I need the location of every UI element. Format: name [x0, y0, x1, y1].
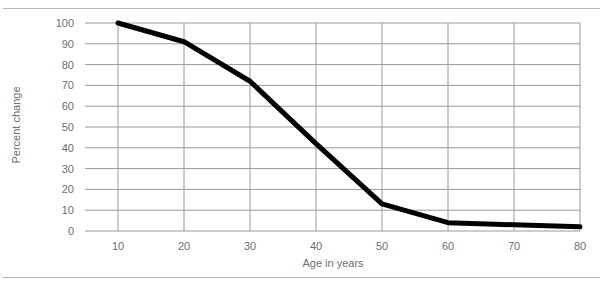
x-tick-label: 40	[310, 241, 322, 252]
y-tick-label: 70	[42, 80, 74, 91]
chart-figure: 0102030405060708090100 1020304050607080 …	[0, 0, 603, 289]
x-tick-label: 60	[442, 241, 454, 252]
y-tick-label: 20	[42, 184, 74, 195]
data-series-line	[118, 23, 580, 227]
y-tick-label: 80	[42, 59, 74, 70]
y-tick-label: 0	[42, 226, 74, 237]
y-tick-label: 50	[42, 122, 74, 133]
x-tick-label: 10	[112, 241, 124, 252]
y-tick-label: 10	[42, 205, 74, 216]
x-tick-label: 70	[508, 241, 520, 252]
y-tick-label: 60	[42, 101, 74, 112]
x-tick-label: 50	[376, 241, 388, 252]
x-axis-title: Age in years	[302, 258, 363, 269]
y-tick-label: 100	[42, 18, 74, 29]
y-gridlines	[85, 23, 580, 231]
x-tick-label: 80	[574, 241, 586, 252]
x-tick-label: 30	[244, 241, 256, 252]
y-axis-title: Percent change	[11, 86, 22, 163]
y-tick-label: 40	[42, 142, 74, 153]
y-tick-label: 90	[42, 38, 74, 49]
y-tick-label: 30	[42, 163, 74, 174]
x-tick-label: 20	[178, 241, 190, 252]
